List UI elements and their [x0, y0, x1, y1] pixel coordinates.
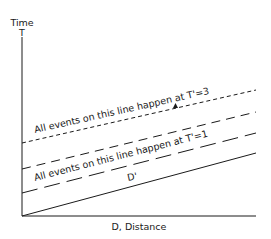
spacetime-diagram: Time T D, Distance All events on this li…: [0, 0, 271, 239]
annotation-t-prime-1: All events on this line happen at T'=1: [33, 128, 209, 183]
annotation-t-prime-3: All events on this line happen at T'=3: [33, 85, 210, 135]
annotation-d-prime: D': [126, 170, 138, 183]
line-t-prime-3: [22, 90, 256, 143]
time-axis-symbol: T: [18, 27, 25, 38]
distance-axis-label: D, Distance: [112, 221, 167, 232]
